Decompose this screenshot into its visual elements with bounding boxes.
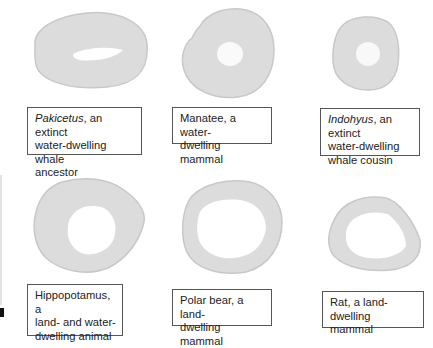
caption-pakicetus: Pakicetus, an extinct water-dwelling wha… xyxy=(27,107,142,155)
caption-text: dwelling mammal xyxy=(180,139,223,165)
caption-text: dwelling animal xyxy=(35,330,112,342)
caption-text: water-dwelling whale xyxy=(35,139,107,165)
bone-cross-section-hippopotamus xyxy=(32,176,148,276)
caption-manatee: Manatee, a water- dwelling mammal xyxy=(172,107,272,144)
caption-indohyus: Indohyus, an extinct water-dwelling whal… xyxy=(320,108,420,156)
page-edge-line xyxy=(0,175,2,305)
caption-text: land- and water- xyxy=(35,316,116,328)
caption-text: dwelling mammal xyxy=(180,321,223,347)
caption-text: Rat, a land-dwelling xyxy=(330,296,388,322)
caption-text: Hippopotamus, a xyxy=(35,289,110,315)
caption-polar-bear: Polar bear, a land- dwelling mammal xyxy=(172,289,272,326)
caption-text: Manatee, a water- xyxy=(180,112,236,138)
bone-cross-section-rat xyxy=(324,190,424,276)
bone-cross-section-manatee xyxy=(178,4,278,100)
caption-text: water-dwelling xyxy=(328,140,400,152)
caption-text: Polar bear, a land- xyxy=(180,294,243,320)
caption-species-name: Pakicetus xyxy=(35,112,84,124)
caption-species-name: Indohyus xyxy=(328,113,373,125)
caption-text: whale cousin xyxy=(328,154,393,166)
bone-cross-section-indohyus xyxy=(330,14,402,92)
caption-text: mammal xyxy=(330,323,373,335)
caption-hippopotamus: Hippopotamus, a land- and water- dwellin… xyxy=(27,284,123,336)
bone-cross-section-polar-bear xyxy=(178,178,286,278)
bone-cross-section-pakicetus xyxy=(27,8,152,90)
caption-rat: Rat, a land-dwelling mammal xyxy=(322,291,424,328)
page-edge-mark xyxy=(0,308,4,317)
